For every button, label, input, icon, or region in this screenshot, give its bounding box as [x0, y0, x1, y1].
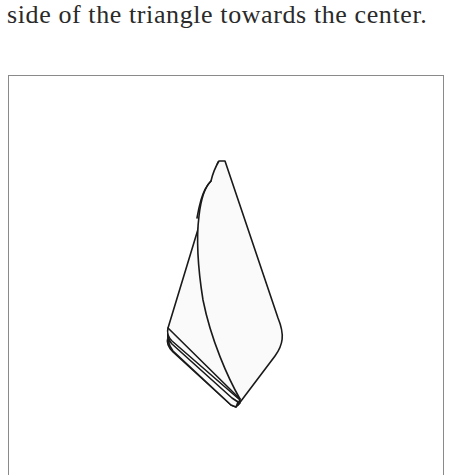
folded-napkin-illustration [0, 0, 453, 461]
